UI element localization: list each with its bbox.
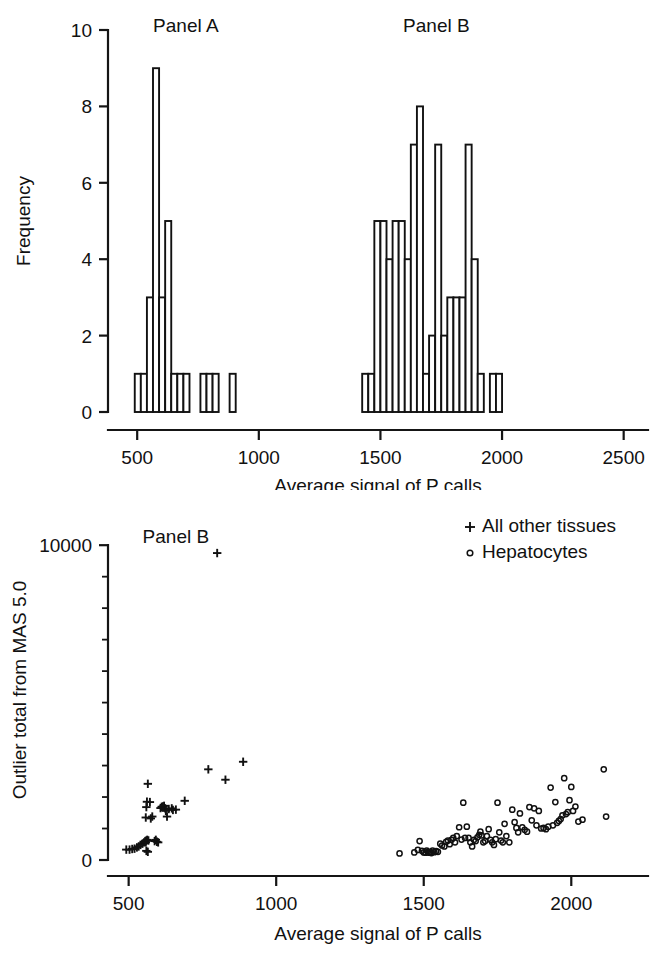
scatter-axes <box>99 545 648 886</box>
y-tick-label: 10000 <box>39 535 92 556</box>
histogram-bar <box>230 374 236 412</box>
marker-circle-icon <box>604 814 609 819</box>
y-tick-label: 4 <box>81 249 92 270</box>
scatter-points <box>122 549 609 856</box>
x-tick-label: 2500 <box>603 447 645 468</box>
marker-circle-icon <box>397 851 402 856</box>
marker-circle-icon <box>502 821 507 826</box>
marker-circle-icon <box>467 550 473 556</box>
histogram-bar <box>496 374 502 412</box>
panel-annotation: Panel A <box>153 15 219 36</box>
y-tick-label: 0 <box>81 850 92 871</box>
y-axis-label: Frequency <box>13 176 34 266</box>
marker-circle-icon <box>417 839 422 844</box>
y-axis-label: Outlier total from MAS 5.0 <box>9 581 30 800</box>
marker-circle-icon <box>457 825 462 830</box>
legend-label: Hepatocytes <box>482 541 588 562</box>
histogram-panel: 02468105001000150020002500Average signal… <box>0 0 662 490</box>
marker-plus-icon <box>181 797 189 805</box>
marker-circle-icon <box>504 833 509 838</box>
scatter-panel: 010000500100015002000Average signal of P… <box>0 490 662 975</box>
histogram-bar <box>213 374 219 412</box>
marker-circle-icon <box>562 776 567 781</box>
marker-plus-icon <box>221 776 229 784</box>
scatter-plot: 010000500100015002000Average signal of P… <box>0 490 662 975</box>
x-axis-label: Average signal of P calls <box>274 923 481 944</box>
marker-circle-icon <box>536 808 541 813</box>
scatter-labels: 010000500100015002000Average signal of P… <box>9 526 592 944</box>
marker-plus-icon <box>148 812 156 820</box>
histogram-bar <box>478 374 484 412</box>
marker-plus-icon <box>204 765 212 773</box>
figure-root: 02468105001000150020002500Average signal… <box>0 0 662 975</box>
marker-circle-icon <box>497 830 502 835</box>
x-axis-label: Average signal of P calls <box>274 475 481 490</box>
y-tick-label: 10 <box>71 20 92 41</box>
marker-circle-icon <box>553 799 558 804</box>
y-tick-label: 8 <box>81 96 92 117</box>
legend-label: All other tissues <box>482 515 616 536</box>
marker-circle-icon <box>512 820 517 825</box>
series-circle <box>397 767 609 856</box>
histogram-plot: 02468105001000150020002500Average signal… <box>0 0 662 490</box>
marker-plus-icon <box>163 812 171 820</box>
y-tick-label: 0 <box>81 402 92 423</box>
marker-plus-icon <box>144 848 152 856</box>
marker-circle-icon <box>601 767 606 772</box>
marker-circle-icon <box>495 800 500 805</box>
marker-circle-icon <box>517 811 522 816</box>
marker-circle-icon <box>507 840 512 845</box>
series-plus <box>122 549 247 856</box>
marker-circle-icon <box>486 827 491 832</box>
marker-circle-icon <box>573 804 578 809</box>
x-tick-label: 2000 <box>550 893 592 914</box>
marker-plus-icon <box>144 780 152 788</box>
scatter-legend: All other tissuesHepatocytes <box>465 515 616 562</box>
marker-plus-icon <box>147 814 155 822</box>
marker-circle-icon <box>510 807 515 812</box>
x-tick-label: 2000 <box>481 447 523 468</box>
marker-circle-icon <box>464 824 469 829</box>
histogram-bar <box>417 106 423 412</box>
marker-plus-icon <box>213 549 221 557</box>
marker-plus-icon <box>239 758 247 766</box>
x-tick-label: 500 <box>121 447 153 468</box>
y-tick-label: 2 <box>81 326 92 347</box>
marker-circle-icon <box>548 785 553 790</box>
y-tick-label: 6 <box>81 173 92 194</box>
marker-circle-icon <box>567 798 572 803</box>
marker-circle-icon <box>569 784 574 789</box>
x-tick-label: 1500 <box>359 447 401 468</box>
panel-annotation: Panel B <box>143 526 210 547</box>
histogram-bars <box>135 68 502 412</box>
marker-plus-icon <box>465 522 475 532</box>
x-tick-label: 500 <box>113 893 145 914</box>
marker-circle-icon <box>461 800 466 805</box>
x-tick-label: 1500 <box>403 893 445 914</box>
marker-circle-icon <box>529 818 534 823</box>
x-tick-label: 1000 <box>238 447 280 468</box>
x-tick-label: 1000 <box>255 893 297 914</box>
marker-circle-icon <box>493 837 498 842</box>
panel-annotation: Panel B <box>403 15 470 36</box>
histogram-bar <box>183 374 189 412</box>
